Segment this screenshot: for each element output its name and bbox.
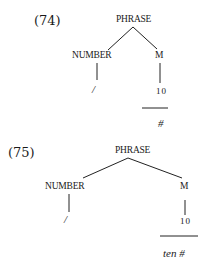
example-number-74: (74) bbox=[34, 14, 61, 27]
leaf-slash-75: / bbox=[64, 214, 67, 225]
node-phrase-74: PHRASE bbox=[116, 15, 151, 25]
branch-phrase-m-74 bbox=[133, 27, 157, 49]
leaf-ten-75: 10 bbox=[180, 217, 191, 226]
branch-phrase-number-74 bbox=[108, 27, 133, 50]
boundary-75: ten # bbox=[163, 248, 185, 259]
boundary-74: # bbox=[158, 118, 164, 129]
example-number-75: (75) bbox=[8, 146, 35, 159]
leaf-ten-74: 10 bbox=[156, 87, 167, 96]
node-m-75: M bbox=[180, 182, 188, 192]
branch-phrase-number-75 bbox=[83, 158, 128, 178]
node-number-74: NUMBER bbox=[72, 51, 111, 61]
tree-lines bbox=[0, 0, 209, 272]
node-phrase-75: PHRASE bbox=[115, 146, 150, 156]
leaf-slash-74: / bbox=[92, 84, 95, 95]
branch-phrase-m-75 bbox=[128, 158, 182, 178]
node-m-74: M bbox=[155, 51, 163, 61]
node-number-75: NUMBER bbox=[45, 182, 84, 192]
